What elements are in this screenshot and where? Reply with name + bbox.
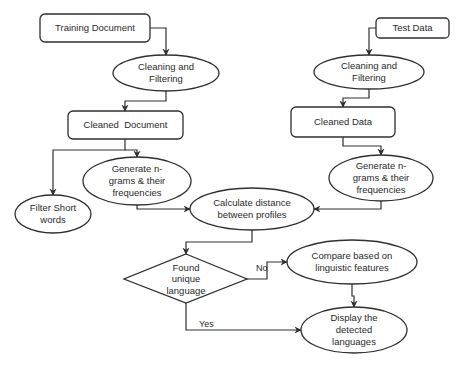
node-label: Found <box>173 262 200 274</box>
node-found-unique-language: Found unique language <box>144 256 228 302</box>
node-test-data: Test Data <box>376 18 449 38</box>
node-label: Cleaning and <box>138 61 194 73</box>
node-label: Training Document <box>55 22 135 34</box>
node-generate-left: Generate n- grams & their frequencies <box>83 157 191 205</box>
node-calculate-distance: Calculate distance between profiles <box>190 188 314 230</box>
node-label: grams & their <box>353 172 410 184</box>
node-label: Generate n- <box>112 163 163 175</box>
edge-generate-right-to-calculate <box>314 201 381 209</box>
edge-cleaned-document-to-generate <box>125 150 137 157</box>
node-label: words <box>40 214 65 226</box>
node-label: Filtering <box>352 72 386 84</box>
node-label: detected <box>336 324 372 336</box>
node-training-document: Training Document <box>40 14 150 42</box>
node-label: between profiles <box>217 209 286 221</box>
node-cleaned-document: Cleaned Document <box>68 111 183 139</box>
node-label: Calculate distance <box>213 197 291 209</box>
edge-testdata-to-cleaning <box>369 28 376 55</box>
node-label: language <box>166 285 205 297</box>
node-filter-short-words: Filter Short words <box>15 195 91 233</box>
edge-label-no: No <box>256 263 268 273</box>
node-compare-linguistic: Compare based on linguistic features <box>287 240 417 284</box>
edge-label-yes: Yes <box>199 319 214 329</box>
node-cleaned-data: Cleaned Data <box>291 107 395 137</box>
edge-training-to-cleaning <box>150 28 166 55</box>
node-label: frequencies <box>356 184 405 196</box>
edge-cleaning-to-cleaned-data <box>343 89 369 107</box>
edge-compare-to-display <box>352 284 354 307</box>
node-label: Compare based on <box>312 250 393 262</box>
edge-cleaned-data-to-generate <box>343 137 381 155</box>
node-generate-right: Generate n- grams & their frequencies <box>329 155 433 201</box>
node-label: grams & their <box>109 175 166 187</box>
node-label: Generate n- <box>356 160 407 172</box>
node-label: frequencies <box>112 187 161 199</box>
node-label: Filter Short <box>30 202 76 214</box>
node-label: unique <box>172 273 201 285</box>
node-cleaning-right: Cleaning and Filtering <box>314 55 424 89</box>
edge-calculate-to-decision <box>186 230 252 254</box>
node-label: Test Data <box>392 22 432 34</box>
node-label: linguistic features <box>315 262 388 274</box>
node-label: languages <box>332 336 376 348</box>
node-label: Cleaning and <box>341 60 397 72</box>
node-label: Filtering <box>149 73 183 85</box>
node-label: Cleaned Data <box>314 116 372 128</box>
node-label: Display the <box>331 312 378 324</box>
edge-generate-left-to-calculate <box>137 205 190 209</box>
edge-cleaning-to-cleaned-document <box>125 91 166 111</box>
node-display-detected: Display the detected languages <box>301 307 407 353</box>
node-label: Cleaned Document <box>84 119 168 131</box>
node-cleaning-left: Cleaning and Filtering <box>113 55 219 91</box>
